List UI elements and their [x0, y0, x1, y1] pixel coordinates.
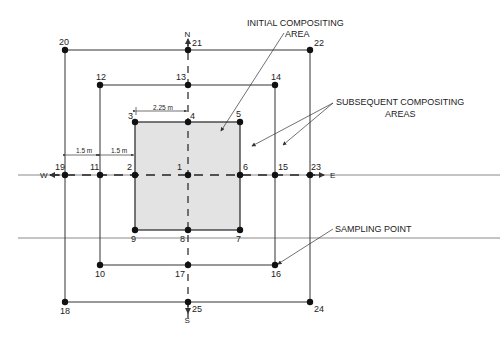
- sampling-point-20[interactable]: [62, 47, 68, 53]
- point-label-2: 2: [127, 162, 132, 172]
- sampling-point-12[interactable]: [97, 82, 103, 88]
- point-label-21: 21: [192, 38, 202, 48]
- compositing-grid-diagram: N S W E 2.25 m 1.5 m 1.5 m INITIAL COMPO…: [0, 0, 502, 338]
- sampling-point-18[interactable]: [62, 299, 68, 305]
- point-label-1: 1: [177, 162, 182, 172]
- point-label-4: 4: [190, 111, 195, 121]
- sampling-point-2[interactable]: [132, 172, 138, 178]
- point-label-5: 5: [236, 109, 241, 119]
- initial-area-callout-line2: AREA: [285, 29, 310, 39]
- point-label-18: 18: [60, 306, 70, 316]
- sampling-point-13[interactable]: [185, 82, 191, 88]
- sampling-point-22[interactable]: [307, 47, 313, 53]
- point-label-10: 10: [95, 269, 105, 279]
- compass-north: N: [185, 30, 191, 39]
- sampling-point-25[interactable]: [185, 299, 191, 305]
- sampling-point-1[interactable]: [185, 172, 191, 178]
- point-label-13: 13: [176, 72, 186, 82]
- compass-south: S: [185, 316, 190, 325]
- sampling-point-8[interactable]: [185, 227, 191, 233]
- dimension-label-2-25m: 2.25 m: [153, 104, 173, 111]
- point-label-24: 24: [314, 304, 324, 314]
- point-label-14: 14: [271, 72, 281, 82]
- compass-west: W: [40, 171, 48, 180]
- point-label-8: 8: [180, 234, 185, 244]
- point-label-20: 20: [59, 37, 69, 47]
- point-label-3: 3: [128, 111, 133, 121]
- dimension-label-inner: 1.5 m: [111, 147, 127, 154]
- sampling-point-5[interactable]: [237, 119, 243, 125]
- sampling-point-10[interactable]: [97, 262, 103, 268]
- point-label-7: 7: [236, 234, 241, 244]
- dimension-label-outer: 1.5 m: [76, 147, 92, 154]
- sampling-point-24[interactable]: [307, 299, 313, 305]
- point-label-9: 9: [131, 234, 136, 244]
- subsequent-area-callout-line1: SUBSEQUENT COMPOSITING: [336, 97, 464, 107]
- sampling-point-7[interactable]: [237, 227, 243, 233]
- sampling-point-23[interactable]: [307, 172, 313, 178]
- point-label-16: 16: [271, 269, 281, 279]
- point-label-19: 19: [55, 162, 65, 172]
- point-label-11: 11: [90, 162, 99, 172]
- point-label-12: 12: [96, 72, 106, 82]
- sampling-point-callout: SAMPLING POINT: [335, 224, 412, 234]
- sampling-point-11[interactable]: [97, 172, 103, 178]
- sampling-point-16[interactable]: [272, 262, 278, 268]
- point-label-15: 15: [278, 162, 288, 172]
- sampling-point-19[interactable]: [62, 172, 68, 178]
- sampling-points: [62, 47, 313, 305]
- sampling-point-17[interactable]: [185, 262, 191, 268]
- sampling-point-callout-line: [278, 229, 333, 264]
- point-label-17: 17: [175, 269, 185, 279]
- sampling-point-6[interactable]: [237, 172, 243, 178]
- point-label-23: 23: [311, 162, 321, 172]
- subsequent-area-callout-arrow-2: [283, 103, 333, 145]
- point-label-25: 25: [192, 304, 202, 314]
- sampling-point-21[interactable]: [185, 47, 191, 53]
- sampling-point-9[interactable]: [132, 227, 138, 233]
- sampling-point-15[interactable]: [272, 172, 278, 178]
- subsequent-area-callout-line2: AREAS: [385, 109, 416, 119]
- point-label-22: 22: [314, 38, 324, 48]
- subsequent-area-callout-arrow-1: [252, 103, 333, 146]
- compass-east: E: [330, 171, 335, 180]
- sampling-point-14[interactable]: [272, 82, 278, 88]
- initial-area-callout-line1: INITIAL COMPOSITING: [247, 18, 344, 28]
- point-label-6: 6: [243, 162, 248, 172]
